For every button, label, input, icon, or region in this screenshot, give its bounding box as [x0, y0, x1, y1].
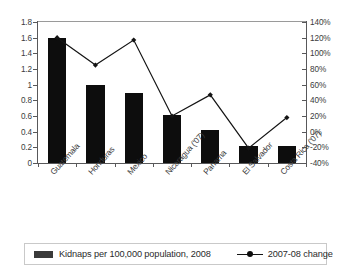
line-marker-icon: [237, 250, 263, 258]
chart-legend: Kidnaps per 100,000 population, 2008 200…: [24, 243, 327, 265]
legend-label-kidnaps: Kidnaps per 100,000 population, 2008: [59, 249, 211, 259]
legend-item-change: 2007-08 change: [237, 249, 333, 259]
chart-figure: 1.81.61.41.210.80.60.40.20 140%120%100%8…: [0, 0, 351, 275]
legend-item-kidnaps: Kidnaps per 100,000 population, 2008: [34, 249, 211, 259]
legend-label-change: 2007-08 change: [268, 249, 333, 259]
line-marker-nicaragua-07: [169, 113, 174, 118]
bar-swatch-icon: [34, 251, 53, 258]
plot-area: 1.81.61.41.210.80.60.40.20 140%120%100%8…: [0, 0, 351, 232]
line-series: [0, 0, 351, 232]
